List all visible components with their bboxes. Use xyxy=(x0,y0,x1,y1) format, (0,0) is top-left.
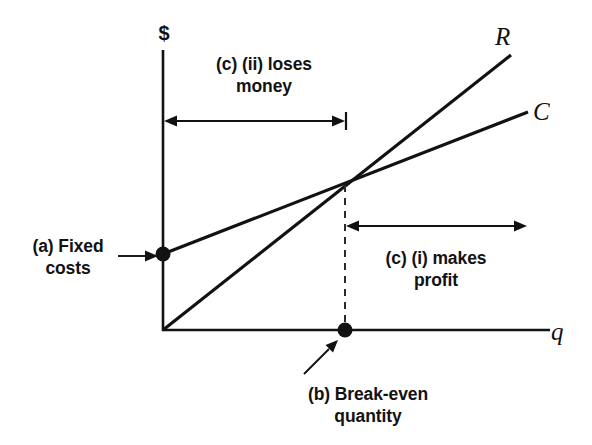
break-even-label-line2: quantity xyxy=(334,406,402,426)
fixed-costs-point xyxy=(156,247,171,262)
fixed-costs-label-line1: (a) Fixed xyxy=(32,236,103,256)
loses-money-right-arrowhead-icon xyxy=(332,116,345,127)
x-axis-label: q xyxy=(551,318,564,345)
cost-line xyxy=(163,112,528,254)
break-even-annotation: (b) Break-even quantity xyxy=(304,340,428,426)
revenue-line xyxy=(163,55,511,330)
break-even-arrow-shaft xyxy=(304,349,329,374)
diagram-canvas: $ q R C (a) Fixed costs (c) (ii) loses m… xyxy=(0,0,592,445)
makes-profit-label-line2: profit xyxy=(414,270,458,290)
loses-money-label-line1: (c) (ii) loses xyxy=(216,54,312,74)
cost-curve-label: C xyxy=(533,98,550,125)
revenue-curve-label: R xyxy=(494,23,510,50)
makes-profit-annotation: (c) (i) makes profit xyxy=(346,221,527,291)
loses-money-left-arrowhead-icon xyxy=(164,116,177,127)
loses-money-label-line2: money xyxy=(236,76,292,96)
makes-profit-right-arrowhead-icon xyxy=(514,221,527,232)
y-axis-label: $ xyxy=(158,22,169,44)
breakeven-diagram: $ q R C (a) Fixed costs (c) (ii) loses m… xyxy=(0,0,592,445)
fixed-costs-label-line2: costs xyxy=(45,258,91,278)
loses-money-annotation: (c) (ii) loses money xyxy=(164,54,346,130)
break-even-point xyxy=(338,323,353,338)
break-even-label-line1: (b) Break-even xyxy=(308,384,428,404)
fixed-costs-annotation: (a) Fixed costs xyxy=(32,236,158,278)
makes-profit-left-arrowhead-icon xyxy=(346,221,359,232)
makes-profit-label-line1: (c) (i) makes xyxy=(386,248,487,268)
